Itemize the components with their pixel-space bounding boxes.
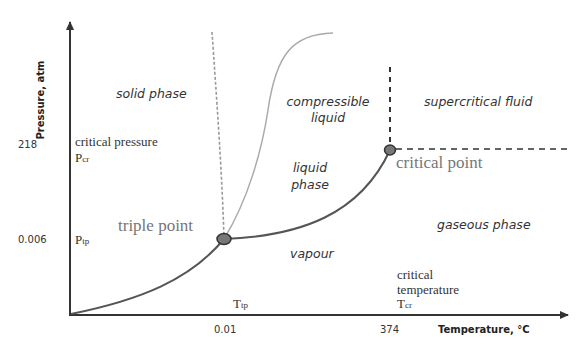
p-tp-label: Ptp bbox=[75, 232, 90, 247]
critical-temperature-label-1: critical bbox=[397, 267, 433, 282]
region-vapour: vapour bbox=[290, 246, 335, 261]
region-liquid-2: phase bbox=[290, 177, 329, 192]
y-tick-218: 218 bbox=[18, 139, 37, 150]
p-cr-main: P bbox=[75, 150, 82, 165]
x-tick-001: 0.01 bbox=[214, 324, 236, 335]
p-tp-sub: tp bbox=[82, 236, 90, 246]
phase-diagram: Pressure, atm 218 0.006 0.01 374 Tempera… bbox=[0, 0, 587, 349]
region-compressible-1: compressible bbox=[286, 94, 369, 109]
triple-point-marker bbox=[217, 234, 231, 245]
critical-temperature-label-2: temperature bbox=[397, 282, 459, 297]
t-tp-label: Ttp bbox=[233, 296, 248, 311]
x-tick-374: 374 bbox=[380, 324, 399, 335]
critical-point-marker bbox=[385, 145, 396, 155]
t-tp-main: T bbox=[233, 296, 241, 311]
p-tp-main: P bbox=[75, 232, 82, 247]
t-cr-sub: cr bbox=[405, 300, 412, 310]
t-tp-sub: tp bbox=[241, 300, 249, 310]
sublimation-curve bbox=[71, 239, 224, 314]
t-cr-label: Tcr bbox=[397, 296, 412, 311]
critical-point-label: critical point bbox=[396, 153, 483, 172]
region-compressible-2: liquid bbox=[311, 110, 345, 125]
region-liquid-1: liquid bbox=[293, 160, 327, 175]
y-axis-title: Pressure, atm bbox=[35, 60, 46, 139]
region-solid-phase: solid phase bbox=[116, 86, 187, 101]
region-supercritical-fluid: supercritical fluid bbox=[424, 94, 533, 109]
melting-curve-dashed bbox=[212, 32, 224, 239]
triple-point-label: triple point bbox=[118, 216, 193, 235]
p-cr-label: Pcr bbox=[75, 150, 89, 165]
region-gaseous-phase: gaseous phase bbox=[437, 217, 531, 232]
critical-pressure-label: critical pressure bbox=[75, 134, 158, 149]
melting-curve-normal bbox=[224, 33, 333, 239]
t-cr-main: T bbox=[397, 296, 405, 311]
x-axis-title: Temperature, °C bbox=[438, 324, 530, 335]
y-tick-0006: 0.006 bbox=[18, 234, 47, 245]
p-cr-sub: cr bbox=[82, 154, 89, 164]
